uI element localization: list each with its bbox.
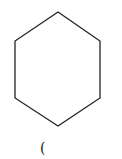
hexagon-shape (15, 12, 100, 126)
hexagon-diagram (0, 0, 122, 159)
caption-text: ( (40, 140, 45, 156)
